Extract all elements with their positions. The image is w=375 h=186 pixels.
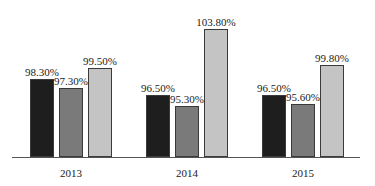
x-tick-label: 2013 xyxy=(60,167,82,179)
bar xyxy=(204,29,228,157)
x-tick-label: 2014 xyxy=(176,167,198,179)
data-label: 95.60% xyxy=(286,91,320,103)
bar xyxy=(88,68,112,157)
data-label: 103.80% xyxy=(196,16,235,28)
bar xyxy=(262,95,286,157)
data-label: 97.30% xyxy=(54,75,88,87)
bar xyxy=(30,79,54,157)
bar-chart: 98.30%97.30%99.50%201396.50%95.30%103.80… xyxy=(0,0,375,186)
bar xyxy=(320,65,344,157)
x-tick-label: 2015 xyxy=(292,167,314,179)
x-axis-line xyxy=(12,157,360,158)
data-label: 95.30% xyxy=(170,93,204,105)
data-label: 99.80% xyxy=(315,52,349,64)
bar xyxy=(291,104,315,157)
bar xyxy=(175,106,199,157)
data-label: 99.50% xyxy=(83,55,117,67)
bar xyxy=(59,88,83,157)
bar xyxy=(146,95,170,157)
